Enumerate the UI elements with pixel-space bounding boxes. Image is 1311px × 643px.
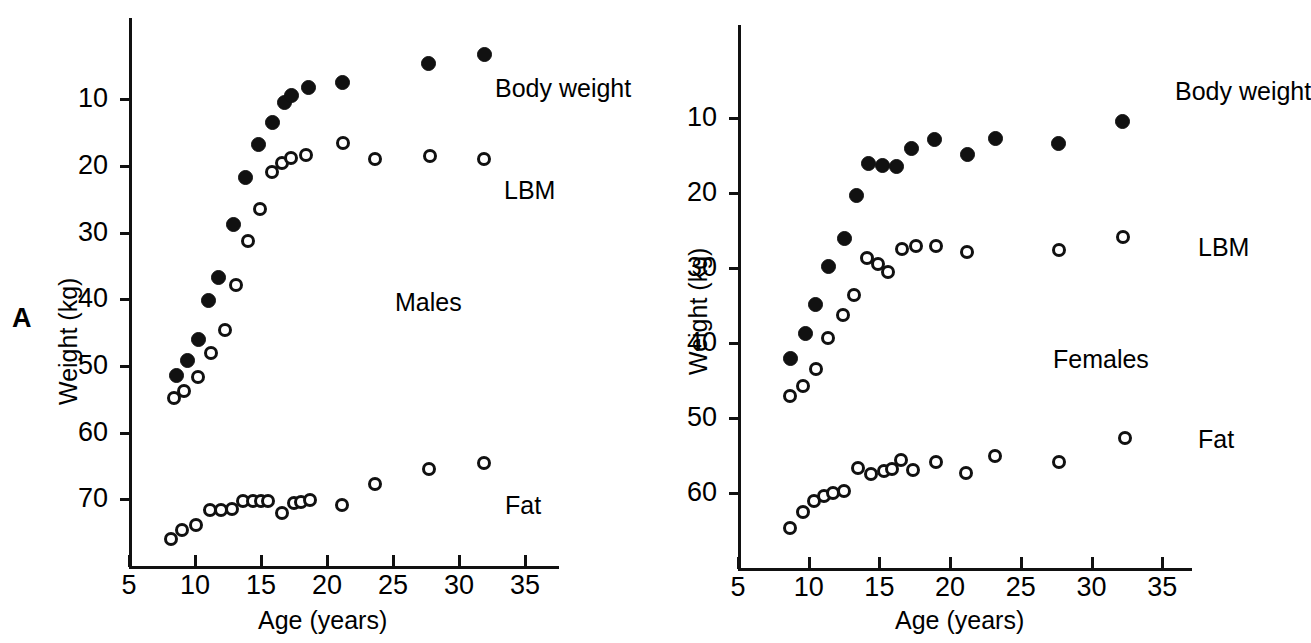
y-axis-title-males: Weight (kg): [56, 278, 81, 405]
data-point-males-lbm: [241, 234, 255, 248]
data-point-males-body-weight: [238, 170, 253, 185]
data-point-males-lbm: [218, 323, 232, 337]
data-point-males-fat: [335, 498, 349, 512]
data-point-males-body-weight: [211, 270, 226, 285]
data-point-females-body-weight: [875, 158, 890, 173]
x-tick-label-males-20: 20: [297, 572, 357, 599]
x-tick-males-10: [194, 555, 197, 567]
data-point-males-lbm: [229, 278, 243, 292]
data-point-males-fat: [477, 456, 491, 470]
data-point-females-body-weight: [821, 259, 836, 274]
x-tick-females-10: [808, 557, 811, 569]
x-tick-label-females-35: 35: [1132, 574, 1192, 601]
data-point-females-body-weight: [798, 326, 813, 341]
data-point-males-fat: [368, 477, 382, 491]
data-point-males-lbm: [423, 149, 437, 163]
data-point-males-body-weight: [477, 47, 492, 62]
x-tick-males-5: [128, 555, 131, 567]
y-tick-females-50: [729, 192, 741, 195]
x-tick-females-5: [737, 557, 740, 569]
data-point-males-body-weight: [251, 137, 266, 152]
x-tick-label-females-15: 15: [849, 574, 909, 601]
x-tick-label-females-10: 10: [779, 574, 839, 601]
data-point-males-lbm: [253, 202, 267, 216]
data-point-males-lbm: [368, 152, 382, 166]
data-point-males-lbm: [284, 151, 298, 165]
data-point-females-fat: [837, 484, 851, 498]
series-label-fat-females: Fat: [1198, 427, 1234, 452]
data-point-females-body-weight: [849, 188, 864, 203]
x-tick-label-males-15: 15: [231, 572, 291, 599]
data-point-males-fat: [303, 493, 317, 507]
x-axis-title-males: Age (years): [258, 608, 387, 633]
data-point-males-lbm: [204, 346, 218, 360]
data-point-males-lbm: [477, 152, 491, 166]
data-point-males-body-weight: [226, 217, 241, 232]
data-point-males-lbm: [299, 148, 313, 162]
data-point-females-lbm: [796, 379, 810, 393]
data-point-males-lbm: [177, 384, 191, 398]
data-point-males-body-weight: [301, 80, 316, 95]
data-point-females-fat: [906, 463, 920, 477]
data-point-females-lbm: [847, 288, 861, 302]
data-point-males-body-weight: [265, 115, 280, 130]
figure-panel-a: A 70605040302010 5101520253035 Weight (k…: [0, 0, 1311, 643]
data-point-females-body-weight: [861, 156, 876, 171]
data-point-females-fat: [894, 453, 908, 467]
y-tick-males-40: [120, 298, 132, 301]
data-point-males-body-weight: [169, 368, 184, 383]
data-point-males-body-weight: [191, 332, 206, 347]
y-tick-label-males-10: 70: [60, 485, 108, 512]
y-tick-males-70: [120, 98, 132, 101]
x-tick-females-25: [1020, 557, 1023, 569]
x-tick-label-females-25: 25: [991, 574, 1051, 601]
data-point-males-fat: [422, 462, 436, 476]
data-point-females-body-weight: [808, 297, 823, 312]
y-tick-females-10: [729, 492, 741, 495]
y-tick-label-females-20: 50: [669, 404, 717, 431]
y-tick-females-60: [729, 117, 741, 120]
data-point-females-fat: [1118, 431, 1132, 445]
data-point-males-fat: [261, 494, 275, 508]
panel-letter-a: A: [12, 305, 32, 332]
y-tick-label-males-20: 60: [60, 419, 108, 446]
x-tick-females-30: [1091, 557, 1094, 569]
data-point-females-lbm: [1052, 243, 1066, 257]
data-point-females-body-weight: [988, 131, 1003, 146]
data-point-males-body-weight: [201, 293, 216, 308]
data-point-females-lbm: [960, 245, 974, 259]
x-tick-label-females-20: 20: [920, 574, 980, 601]
x-tick-label-females-5: 5: [708, 574, 768, 601]
series-label-fat-males: Fat: [505, 493, 541, 518]
y-tick-females-40: [729, 267, 741, 270]
data-point-females-body-weight: [927, 132, 942, 147]
x-tick-label-males-5: 5: [99, 572, 159, 599]
x-tick-males-20: [326, 555, 329, 567]
data-point-males-fat: [175, 523, 189, 537]
data-point-females-body-weight: [960, 147, 975, 162]
data-point-females-lbm: [909, 239, 923, 253]
x-tick-label-females-30: 30: [1062, 574, 1122, 601]
data-point-females-body-weight: [837, 231, 852, 246]
data-point-females-fat: [796, 505, 810, 519]
data-point-females-fat: [929, 455, 943, 469]
x-axis-line-females: [738, 568, 1192, 571]
data-point-females-body-weight: [904, 141, 919, 156]
group-label-males: Males: [395, 290, 462, 315]
data-point-females-lbm: [881, 265, 895, 279]
data-point-females-lbm: [1116, 230, 1130, 244]
y-tick-males-60: [120, 165, 132, 168]
data-point-females-body-weight: [1115, 114, 1130, 129]
y-tick-label-males-70: 10: [60, 85, 108, 112]
y-tick-label-males-50: 30: [60, 219, 108, 246]
x-tick-females-20: [949, 557, 952, 569]
data-point-females-lbm: [836, 308, 850, 322]
y-tick-females-20: [729, 417, 741, 420]
series-label-lbm-males: LBM: [504, 178, 555, 203]
x-tick-females-35: [1161, 557, 1164, 569]
data-point-females-lbm: [783, 389, 797, 403]
data-point-males-fat: [275, 506, 289, 520]
y-tick-males-50: [120, 232, 132, 235]
x-axis-title-females: Age (years): [895, 608, 1024, 633]
data-point-females-fat: [864, 467, 878, 481]
